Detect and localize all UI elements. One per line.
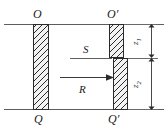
- z2-symbol: z: [130, 85, 140, 89]
- label-point-o: O: [33, 8, 42, 20]
- dimension-line-z2: [146, 58, 157, 110]
- z2-subscript: 2: [135, 81, 142, 84]
- z1-subscript: 1: [135, 38, 142, 41]
- label-point-o-prime: O′: [107, 8, 118, 20]
- label-dimension-z2: z2: [131, 78, 142, 92]
- label-point-q: Q: [34, 113, 43, 125]
- label-s: S: [83, 44, 89, 55]
- technical-diagram: O O′ Q Q′ S R z1 z2: [0, 0, 168, 134]
- z1-symbol: z: [130, 42, 140, 46]
- left-hatched-column: [33, 24, 49, 110]
- flow-arrow-icon: [60, 73, 114, 82]
- label-point-q-prime: Q′: [108, 113, 119, 125]
- right-hatched-column-upper: [109, 24, 124, 58]
- dimension-line-z1: [146, 24, 157, 58]
- s-level-line: [70, 58, 112, 59]
- label-r: R: [79, 84, 86, 95]
- label-dimension-z1: z1: [131, 35, 142, 49]
- right-hatched-column-lower: [113, 58, 128, 110]
